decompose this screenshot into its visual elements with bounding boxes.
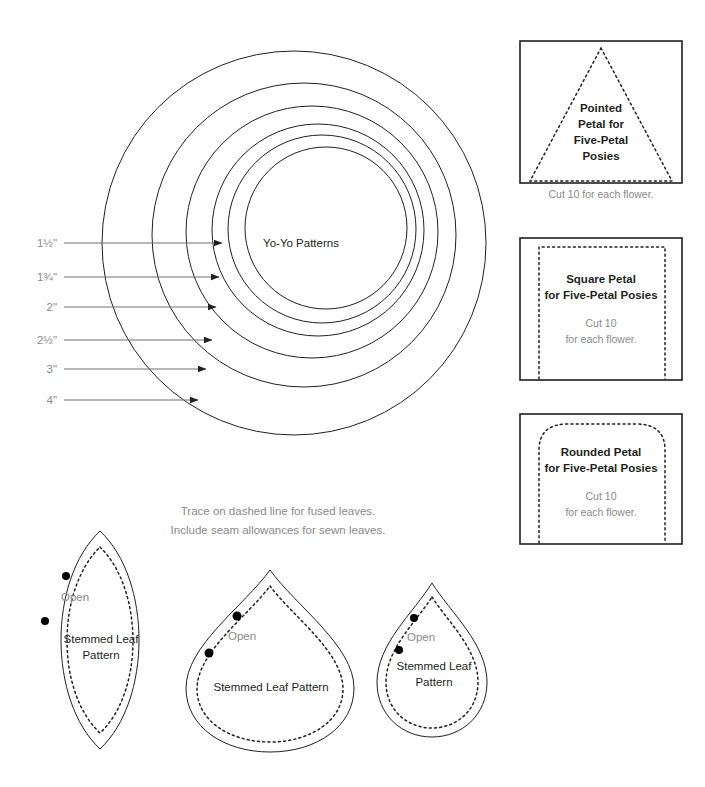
leaf-teardrop-large-dot-lower	[205, 649, 214, 658]
square-petal-caption-line-1: Cut 10	[586, 317, 617, 329]
leaf-teardrop-small-open-label: Open	[407, 631, 435, 643]
leaf-lens-dot-upper	[62, 572, 70, 580]
square-petal-title-line-1: Square Petal	[566, 273, 636, 285]
size-label-3in: 3"	[47, 363, 57, 375]
yoyo-circle-3in	[152, 83, 456, 387]
yoyo-size-callouts: 1½" 1¾" 2" 2½" 3" 4"	[37, 237, 222, 406]
pointed-petal-caption: Cut 10 for each flower.	[548, 188, 653, 200]
leaf-teardrop-large-outline	[186, 570, 354, 752]
size-label-4in: 4"	[47, 394, 57, 406]
square-petal-title-line-2: for Five-Petal Posies	[544, 289, 657, 301]
square-petal-panel: Square Petal for Five-Petal Posies Cut 1…	[520, 238, 682, 380]
yoyo-circle-1half-in	[245, 147, 407, 309]
yoyo-circle-1three-quarter-in	[228, 135, 416, 323]
leaf-teardrop-large-title-line-1: Stemmed Leaf Pattern	[213, 681, 328, 693]
rounded-petal-title-line-2: for Five-Petal Posies	[544, 462, 657, 474]
yoyo-circle-2half-in	[186, 106, 438, 358]
size-label-1half: 1½"	[37, 237, 57, 249]
leaf-teardrop-small-pattern: Open Stemmed Leaf Pattern	[377, 583, 487, 737]
leaf-teardrop-small-title-line-1: Stemmed Leaf	[397, 660, 473, 672]
rounded-petal-caption-line-1: Cut 10	[586, 490, 617, 502]
leaf-lens-dot-lower	[41, 617, 49, 625]
size-label-2half: 2½"	[37, 334, 57, 346]
leaf-lens-title-line-2: Pattern	[82, 649, 119, 661]
leaf-teardrop-large-dashed-seam	[197, 586, 343, 742]
pointed-petal-title-line-3: Five-Petal	[574, 134, 628, 146]
leaf-teardrop-small-dot-lower	[395, 646, 403, 654]
rounded-petal-panel: Rounded Petal for Five-Petal Posies Cut …	[520, 414, 682, 544]
leaf-teardrop-large-open-label: Open	[228, 630, 256, 642]
rounded-petal-dashed-shape	[539, 424, 665, 543]
leaf-teardrop-large-pattern: Open Stemmed Leaf Pattern	[186, 570, 354, 752]
square-petal-caption-line-2: for each flower.	[565, 333, 636, 345]
square-petal-frame	[520, 238, 682, 380]
leaf-lens-open-label: Open	[61, 591, 89, 603]
leaf-teardrop-large-dot-upper	[233, 612, 242, 621]
leaf-note-line-2: Include seam allowances for sewn leaves.	[171, 524, 386, 536]
leaf-teardrop-small-title-line-2: Pattern	[415, 676, 452, 688]
yoyo-center-label: Yo-Yo Patterns	[263, 237, 339, 249]
leaf-lens-title-line-1: Stemmed Leaf	[64, 633, 140, 645]
size-label-2in: 2"	[47, 301, 57, 313]
pointed-petal-title-line-2: Petal for	[578, 118, 625, 130]
leaf-teardrop-small-dot-upper	[410, 614, 418, 622]
pointed-petal-title-line-1: Pointed	[580, 102, 622, 114]
pointed-petal-title-line-4: Posies	[582, 150, 619, 162]
square-petal-dashed-square	[539, 247, 665, 379]
leaf-instruction-note: Trace on dashed line for fused leaves. I…	[171, 505, 386, 536]
rounded-petal-caption-line-2: for each flower.	[565, 506, 636, 518]
yoyo-circle-2in	[212, 124, 424, 336]
size-label-1three-quarter: 1¾"	[37, 271, 57, 283]
pattern-artwork: Yo-Yo Patterns 1½" 1¾" 2" 2½" 3" 4" Poin…	[0, 0, 705, 787]
leaf-note-line-1: Trace on dashed line for fused leaves.	[181, 505, 376, 517]
leaf-lens-pattern: Open Stemmed Leaf Pattern	[41, 531, 139, 749]
rounded-petal-title-line-1: Rounded Petal	[561, 446, 642, 458]
pointed-petal-panel: Pointed Petal for Five-Petal Posies Cut …	[520, 41, 682, 200]
pattern-sheet: Yo-Yo Patterns 1½" 1¾" 2" 2½" 3" 4" Poin…	[0, 0, 705, 787]
